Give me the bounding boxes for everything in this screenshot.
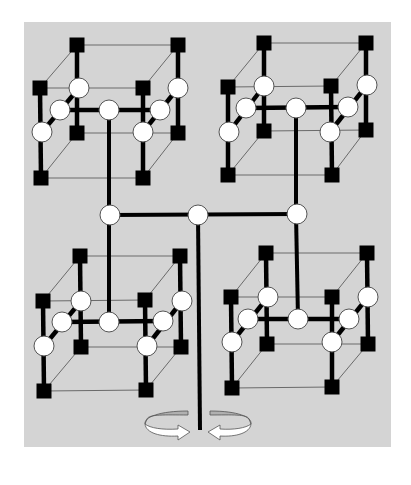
hub-circle-right xyxy=(287,204,307,224)
circle-node-top-left-right-mid xyxy=(150,100,170,120)
square-node-bottom-left-back-bot-right xyxy=(174,340,189,355)
square-node-bottom-right-front-top-right xyxy=(325,290,340,305)
circle-node-bottom-right-center xyxy=(288,309,308,329)
square-node-bottom-right-back-top-right xyxy=(360,246,375,261)
square-node-top-right-back-top-left xyxy=(257,36,272,51)
circle-node-bottom-right-right-mid xyxy=(339,309,359,329)
circle-node-top-right-right-back xyxy=(357,75,377,95)
circle-node-bottom-left-left-back xyxy=(71,291,91,311)
circle-node-top-right-right-mid xyxy=(338,97,358,117)
square-node-top-right-back-bot-left xyxy=(257,124,272,139)
circle-node-top-left-right-front xyxy=(133,122,153,142)
square-node-bottom-right-front-bot-left xyxy=(225,381,240,396)
root-link xyxy=(198,215,200,430)
circle-node-top-right-right-front xyxy=(320,122,340,142)
square-node-bottom-right-back-bot-right xyxy=(361,337,376,352)
square-node-bottom-left-front-bot-right xyxy=(139,383,154,398)
square-node-bottom-left-front-top-left xyxy=(36,294,51,309)
circle-node-top-left-center xyxy=(99,100,119,120)
square-node-top-right-front-bot-left xyxy=(221,168,236,183)
circle-node-top-left-right-back xyxy=(168,78,188,98)
square-node-top-right-back-bot-right xyxy=(359,123,374,138)
square-node-top-right-front-bot-right xyxy=(325,168,340,183)
circle-node-bottom-right-left-mid xyxy=(238,309,258,329)
square-node-top-left-front-bot-left xyxy=(34,171,49,186)
circle-node-bottom-left-right-mid xyxy=(153,311,173,331)
square-node-bottom-right-back-top-left xyxy=(259,246,274,261)
square-node-top-right-back-top-right xyxy=(359,36,374,51)
circle-node-bottom-left-center xyxy=(99,312,119,332)
circle-node-top-right-left-front xyxy=(219,122,239,142)
circle-node-bottom-right-right-front xyxy=(322,332,342,352)
square-node-bottom-left-back-bot-left xyxy=(74,340,89,355)
square-node-bottom-left-front-top-right xyxy=(138,293,153,308)
square-node-top-left-front-top-left xyxy=(33,81,48,96)
square-node-top-right-front-top-left xyxy=(221,80,236,95)
circle-node-bottom-right-right-back xyxy=(358,287,378,307)
square-node-top-left-back-top-right xyxy=(171,38,186,53)
circle-node-bottom-right-left-back xyxy=(258,287,278,307)
hub-circle-left xyxy=(100,205,120,225)
h-tree-cube-network-diagram xyxy=(0,0,411,485)
square-node-top-left-front-top-right xyxy=(136,81,151,96)
square-node-bottom-left-front-bot-left xyxy=(37,384,52,399)
circle-node-top-left-left-mid xyxy=(50,100,70,120)
circle-node-bottom-left-right-front xyxy=(137,336,157,356)
circle-node-bottom-left-left-mid xyxy=(52,312,72,332)
circle-node-bottom-right-left-front xyxy=(222,332,242,352)
square-node-top-left-back-bot-right xyxy=(171,126,186,141)
circle-node-bottom-left-left-front xyxy=(34,336,54,356)
circle-node-top-left-left-back xyxy=(69,78,89,98)
square-node-top-right-front-top-right xyxy=(324,79,339,94)
square-node-bottom-left-back-top-left xyxy=(73,249,88,264)
hub-circle-center xyxy=(188,205,208,225)
square-node-bottom-right-front-top-left xyxy=(224,290,239,305)
square-node-top-left-back-top-left xyxy=(70,38,85,53)
circle-node-bottom-left-right-back xyxy=(172,291,192,311)
circle-node-top-left-left-front xyxy=(32,122,52,142)
square-node-top-left-front-bot-right xyxy=(136,171,151,186)
circle-node-top-right-center xyxy=(286,98,306,118)
square-node-bottom-right-back-bot-left xyxy=(260,337,275,352)
circle-node-top-right-left-mid xyxy=(236,98,256,118)
circle-node-top-right-left-back xyxy=(254,76,274,96)
square-node-bottom-right-front-bot-right xyxy=(325,380,340,395)
square-node-bottom-left-back-top-right xyxy=(173,249,188,264)
square-node-top-left-back-bot-left xyxy=(70,126,85,141)
trunk-link xyxy=(296,214,298,319)
